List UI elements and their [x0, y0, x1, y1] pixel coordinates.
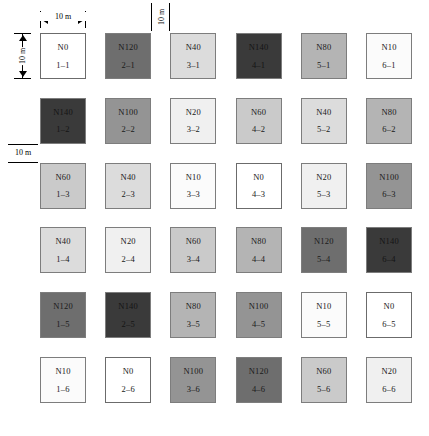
plot-treatment-label: N20: [316, 173, 331, 182]
plot-treatment-label: N120: [53, 302, 73, 311]
plot-cell: N101–6: [40, 357, 86, 403]
plot-treatment-label: N10: [186, 173, 201, 182]
plot-treatment-label: N120: [249, 367, 269, 376]
arrow-down-icon: [19, 71, 27, 77]
plot-cell: N206–6: [366, 357, 412, 403]
plot-treatment-label: N0: [123, 367, 134, 376]
gap-rule-left: [151, 3, 152, 31]
plot-id-label: 3–6: [187, 385, 200, 394]
plot-id-label: 1–5: [56, 320, 69, 329]
plot-id-label: 1–2: [56, 125, 69, 134]
plot-id-label: 4–5: [252, 320, 265, 329]
dimension-tick-bottom: [14, 78, 31, 79]
plot-id-label: 5–2: [317, 125, 330, 134]
plot-cell: N105–5: [301, 292, 347, 338]
column-gap-dimension: 10 m: [151, 3, 170, 31]
plot-id-label: 6–2: [382, 125, 395, 134]
plot-treatment-label: N0: [253, 173, 264, 182]
plot-id-label: 4–2: [252, 125, 265, 134]
plot-id-label: 6–6: [382, 385, 395, 394]
plot-cell: N1205–4: [301, 227, 347, 273]
plot-treatment-label: N10: [316, 302, 331, 311]
plot-cell: N1006–3: [366, 163, 412, 209]
arrow-up-icon: [19, 35, 27, 41]
plot-cell: N806–2: [366, 98, 412, 144]
plot-treatment-label: N140: [379, 237, 399, 246]
plot-treatment-label: N100: [184, 367, 204, 376]
plot-cell: N604–2: [236, 98, 282, 144]
plot-treatment-label: N0: [58, 43, 69, 52]
plot-cell: N405–2: [301, 98, 347, 144]
plot-id-label: 6–1: [382, 61, 395, 70]
plot-id-label: 2–6: [122, 385, 135, 394]
plot-treatment-label: N100: [118, 108, 138, 117]
plot-id-label: 5–1: [317, 61, 330, 70]
plot-cell: N402–3: [105, 163, 151, 209]
dimension-tick-top: [14, 33, 31, 34]
plot-id-label: 1–1: [56, 61, 69, 70]
plot-cell: N205–3: [301, 163, 347, 209]
plot-cell: N01–1: [40, 33, 86, 79]
plot-id-label: 6–4: [382, 255, 395, 264]
plot-treatment-label: N60: [186, 237, 201, 246]
plot-treatment-label: N120: [314, 237, 334, 246]
plot-id-label: 3–2: [187, 125, 200, 134]
plot-treatment-label: N60: [316, 367, 331, 376]
plot-id-label: 5–5: [317, 320, 330, 329]
plot-id-label: 3–3: [187, 190, 200, 199]
plot-id-label: 4–3: [252, 190, 265, 199]
plot-id-label: 5–6: [317, 385, 330, 394]
plot-treatment-label: N40: [186, 43, 201, 52]
plot-treatment-label: N40: [55, 237, 70, 246]
plot-treatment-label: N80: [381, 108, 396, 117]
plot-id-label: 5–4: [317, 255, 330, 264]
plot-treatment-label: N100: [249, 302, 269, 311]
plot-cell: N401–4: [40, 227, 86, 273]
plot-cell: N1402–5: [105, 292, 151, 338]
column-gap-label: 10 m: [156, 8, 165, 26]
plot-cell: N803–5: [170, 292, 216, 338]
plot-treatment-label: N10: [55, 367, 70, 376]
plot-id-label: 5–3: [317, 190, 330, 199]
plot-cell: N1204–6: [236, 357, 282, 403]
plot-id-label: 2–1: [122, 61, 135, 70]
plot-cell: N804–4: [236, 227, 282, 273]
plot-cell: N603–4: [170, 227, 216, 273]
plot-treatment-label: N140: [118, 302, 138, 311]
plot-treatment-label: N20: [186, 108, 201, 117]
plot-height-label: 10 m: [18, 47, 27, 65]
plot-cell: N106–1: [366, 33, 412, 79]
plot-cell: N1004–5: [236, 292, 282, 338]
gap-rule-top: [8, 144, 38, 145]
plot-treatment-label: N120: [118, 43, 138, 52]
plot-treatment-label: N140: [249, 43, 269, 52]
plot-width-label: 10 m: [40, 12, 86, 21]
plot-treatment-label: N20: [121, 237, 136, 246]
plot-treatment-label: N140: [53, 108, 73, 117]
plot-cell: N103–3: [170, 163, 216, 209]
plot-cell: N1401–2: [40, 98, 86, 144]
row-gap-label: 10 m: [8, 148, 38, 157]
row-gap-dimension: 10 m: [8, 144, 38, 163]
plot-id-label: 4–1: [252, 61, 265, 70]
plot-id-label: 3–5: [187, 320, 200, 329]
plot-cell: N1003–6: [170, 357, 216, 403]
plot-id-label: 3–4: [187, 255, 200, 264]
gap-rule-right: [169, 3, 170, 31]
plot-width-dimension: 10 m: [40, 6, 86, 30]
plot-id-label: 2–3: [122, 190, 135, 199]
plot-treatment-label: N20: [381, 367, 396, 376]
plot-cell: N805–1: [301, 33, 347, 79]
plot-cell: N1201–5: [40, 292, 86, 338]
plot-id-label: 2–2: [122, 125, 135, 134]
plot-cell: N1202–1: [105, 33, 151, 79]
plot-treatment-label: N100: [379, 173, 399, 182]
plot-cell: N202–4: [105, 227, 151, 273]
plot-cell: N1404–1: [236, 33, 282, 79]
plot-treatment-label: N0: [384, 302, 395, 311]
plot-cell: N601–3: [40, 163, 86, 209]
plot-cell: N06–5: [366, 292, 412, 338]
plot-cell: N04–3: [236, 163, 282, 209]
plot-id-label: 1–3: [56, 190, 69, 199]
plot-treatment-label: N40: [121, 173, 136, 182]
